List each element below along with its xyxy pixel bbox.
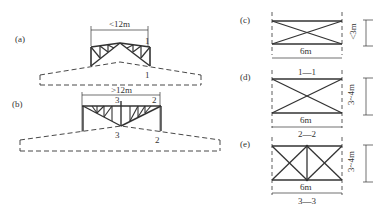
panel-a-section-top: 1 [145, 37, 150, 46]
panel-e-width: 6m [300, 183, 312, 192]
panel-b-section-3-bottom: 3 [115, 131, 120, 140]
bracing-e [272, 137, 373, 195]
truss-a [40, 26, 201, 85]
panel-d-height: 3~4m [347, 84, 356, 105]
panel-e-section: 3—3 [298, 197, 316, 206]
panel-c-label: (c) [240, 16, 250, 25]
panel-c-height: <3m [349, 23, 358, 40]
panel-b-span: >12m [111, 86, 132, 95]
bracing-diagram [0, 0, 387, 218]
panel-e-height: 3~4m [347, 151, 356, 172]
panel-a-section-bottom: 1 [145, 71, 150, 80]
panel-b-section-2-bottom: 2 [155, 136, 160, 145]
panel-d-width: 6m [300, 116, 312, 125]
panel-a-label: (a) [15, 35, 25, 44]
panel-d-section: 2—2 [298, 130, 316, 139]
panel-b-label: (b) [12, 100, 23, 109]
panel-b-section-3-top: 3 [115, 96, 120, 105]
panel-e-label: (e) [240, 140, 250, 149]
panel-d-label: (d) [240, 73, 251, 82]
panel-c-section: 1—1 [298, 68, 316, 77]
bracing-c [272, 12, 373, 58]
panel-b-section-2-top: 2 [152, 96, 157, 105]
bracing-d [272, 70, 373, 128]
panel-a-span: <12m [109, 20, 130, 29]
truss-b [20, 92, 220, 151]
panel-c-width: 6m [300, 47, 312, 56]
